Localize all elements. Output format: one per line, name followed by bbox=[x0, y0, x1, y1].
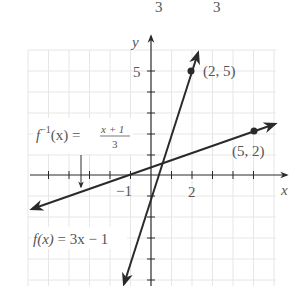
y-axis-label: y bbox=[130, 34, 139, 50]
point-2-5 bbox=[188, 68, 195, 75]
point-label-5-2: (5, 2) bbox=[232, 143, 265, 160]
top-fragment-glyph-1: 3 bbox=[155, 0, 163, 15]
graph-canvas: 3 3 x y −1 2 5 bbox=[0, 0, 297, 286]
y-tick-label-5: 5 bbox=[133, 64, 141, 80]
x-tick-label-neg1: −1 bbox=[116, 183, 132, 199]
point-5-2 bbox=[251, 128, 258, 135]
f-inverse-numerator: x + 1 bbox=[100, 123, 124, 135]
f-inverse-denominator: 3 bbox=[112, 138, 118, 150]
top-fragment-glyph-2: 3 bbox=[213, 0, 221, 15]
x-tick-label-2: 2 bbox=[188, 184, 196, 200]
f-line bbox=[124, 53, 198, 284]
f-label: f(x) = 3x − 1 bbox=[33, 231, 108, 248]
x-axis-label: x bbox=[280, 182, 288, 198]
point-label-2-5: (2, 5) bbox=[203, 63, 236, 80]
